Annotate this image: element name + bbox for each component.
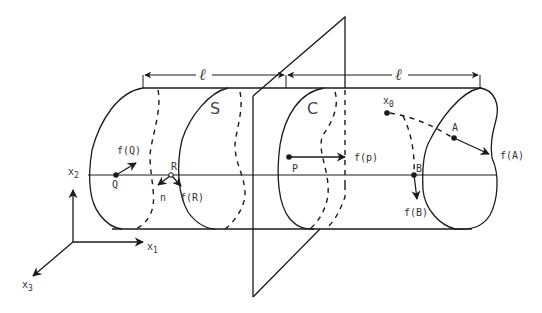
axis-x2-label: x2 (68, 166, 79, 180)
force-b-label: f(B) (404, 207, 428, 218)
dimension-lines: ℓ ℓ (143, 65, 480, 88)
point-b: B f(B) (404, 163, 428, 218)
force-r-label: f(R) (180, 192, 204, 203)
point-a: A f(A) (451, 122, 524, 161)
length-label-left: ℓ (199, 65, 206, 84)
normal-label: n (160, 192, 166, 203)
force-q-label: f(Q) (117, 145, 141, 156)
point-r: R n f(R) (158, 161, 204, 203)
svg-text:Q: Q (112, 179, 118, 190)
svg-text:R: R (171, 161, 178, 172)
length-label-right: ℓ (395, 65, 402, 84)
point-p: P f(p) (286, 152, 378, 174)
cylinder-diagram: ℓ ℓ x2 x1 x3 S C (0, 0, 542, 313)
force-p-label: f(p) (354, 152, 378, 163)
force-a-label: f(A) (500, 150, 524, 161)
cylinder (88, 88, 497, 229)
axis-x3-label: x3 (22, 279, 33, 293)
surface-label: S (210, 99, 220, 118)
svg-text:B: B (416, 163, 422, 174)
svg-text:A: A (452, 122, 458, 133)
svg-text:P: P (292, 163, 298, 174)
point-q: Q f(Q) (112, 145, 141, 190)
svg-text:x0: x0 (383, 95, 394, 109)
point-x0: x0 (383, 95, 453, 173)
cross-section-label: C (307, 99, 318, 118)
axis-x1-label: x1 (147, 241, 158, 255)
